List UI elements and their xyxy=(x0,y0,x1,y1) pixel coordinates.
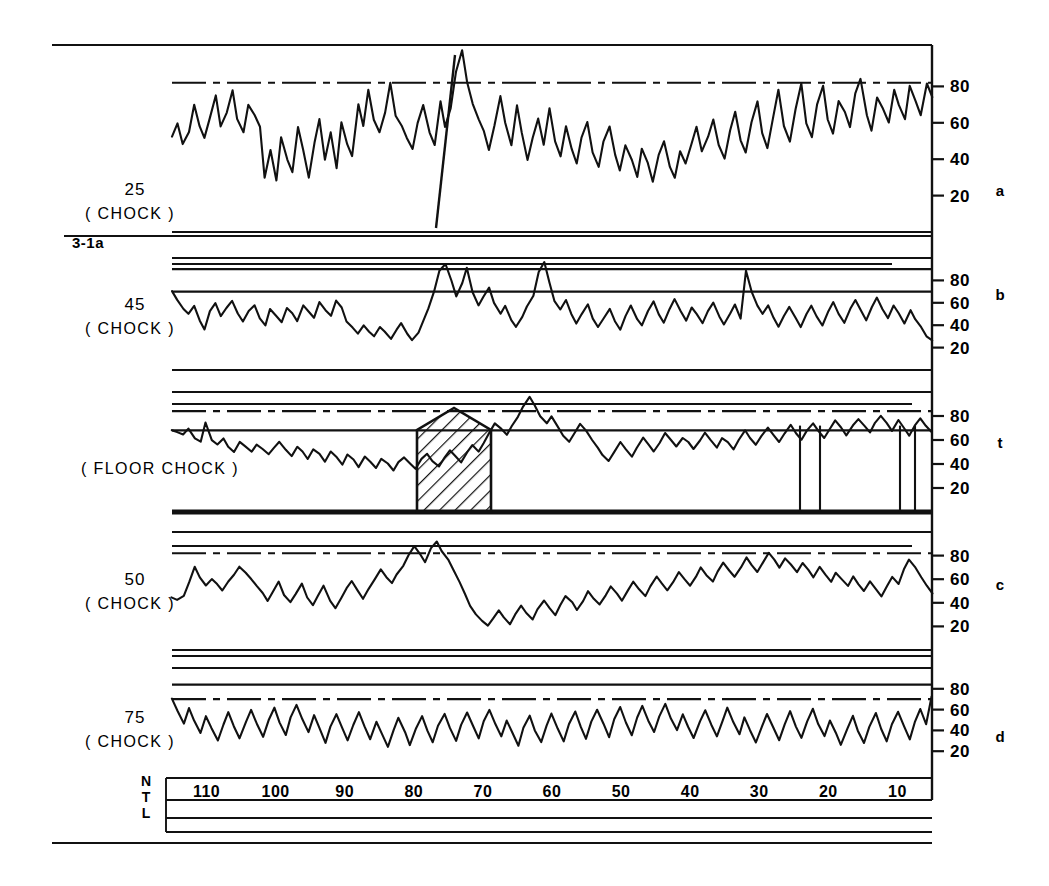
panel-number-a: 25 xyxy=(125,180,146,199)
y-tick-label-c-40: 40 xyxy=(950,594,970,613)
x-tick-label-20: 20 xyxy=(819,783,838,800)
panel-letter-d: d xyxy=(995,728,1004,745)
x-tick-label-100: 100 xyxy=(262,783,290,800)
y-tick-label-c-80: 80 xyxy=(950,547,970,566)
x-tick-label-80: 80 xyxy=(404,783,423,800)
y-tick-label-d-80: 80 xyxy=(950,680,970,699)
x-axis-row-label-T: T xyxy=(142,789,151,805)
y-tick-label-c-60: 60 xyxy=(950,570,970,589)
chart-canvas: 80604020a80604020b80604020t80604020c8060… xyxy=(0,0,1049,886)
trace-d xyxy=(172,697,932,747)
y-tick-label-c-20: 20 xyxy=(950,617,970,636)
y-tick-label-a-60: 60 xyxy=(950,114,970,133)
hatched-region-floor-chock xyxy=(417,408,491,512)
trace-a xyxy=(172,50,932,182)
x-tick-label-90: 90 xyxy=(335,783,354,800)
y-tick-label-t-20: 20 xyxy=(950,479,970,498)
y-tick-label-t-60: 60 xyxy=(950,431,970,450)
y-tick-label-b-80: 80 xyxy=(950,271,970,290)
panel-sublabel-c: ( CHOCK ) xyxy=(85,595,175,612)
panel-sublabel-t: ( FLOOR CHOCK ) xyxy=(81,460,239,477)
panel-letter-a: a xyxy=(996,182,1005,199)
y-tick-label-b-40: 40 xyxy=(950,316,970,335)
x-tick-label-10: 10 xyxy=(888,783,907,800)
x-tick-label-70: 70 xyxy=(474,783,493,800)
x-tick-label-50: 50 xyxy=(612,783,631,800)
panel-number-b: 45 xyxy=(125,295,146,314)
y-tick-label-t-80: 80 xyxy=(950,407,970,426)
panel-letter-t: t xyxy=(998,434,1003,451)
y-tick-label-t-40: 40 xyxy=(950,455,970,474)
x-tick-label-110: 110 xyxy=(193,783,220,800)
panel-number-c: 50 xyxy=(125,570,146,589)
x-axis-row-label-L: L xyxy=(142,805,151,821)
x-tick-label-40: 40 xyxy=(681,783,700,800)
trace-b xyxy=(172,262,932,340)
y-tick-label-d-40: 40 xyxy=(950,721,970,740)
panel-sublabel-a: ( CHOCK ) xyxy=(85,205,175,222)
x-tick-label-60: 60 xyxy=(543,783,562,800)
panel-a-diagonal-line xyxy=(436,55,455,228)
panel-sublabel-d: ( CHOCK ) xyxy=(85,733,175,750)
y-tick-label-a-80: 80 xyxy=(950,77,970,96)
y-tick-label-d-20: 20 xyxy=(950,742,970,761)
x-axis-row-label-N: N xyxy=(141,773,151,789)
trace-t xyxy=(172,397,932,471)
x-tick-label-30: 30 xyxy=(750,783,769,800)
panel-letter-c: c xyxy=(996,576,1004,593)
panel-sublabel-b: ( CHOCK ) xyxy=(85,320,175,337)
y-tick-label-b-60: 60 xyxy=(950,294,970,313)
figure-id-label: 3-1a xyxy=(72,234,104,251)
y-tick-label-a-20: 20 xyxy=(950,187,970,206)
panel-number-d: 75 xyxy=(125,708,146,727)
y-tick-label-a-40: 40 xyxy=(950,150,970,169)
y-tick-label-d-60: 60 xyxy=(950,701,970,720)
y-tick-label-b-20: 20 xyxy=(950,339,970,358)
panel-letter-b: b xyxy=(995,286,1004,303)
figure-root: 80604020a80604020b80604020t80604020c8060… xyxy=(0,0,1049,886)
